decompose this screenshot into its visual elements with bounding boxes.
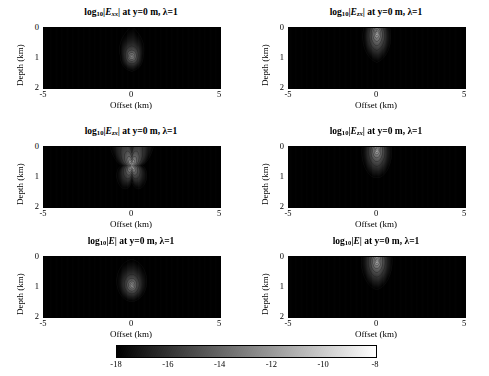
panel-ezx-mid-right-contour-canvas <box>289 147 465 207</box>
panel-ezx-top-ytick-0: 0 <box>266 22 284 32</box>
panel-emag-right-xtick-1: 0 <box>364 318 388 328</box>
panel-emag-right-xlabel: Offset (km) <box>288 329 464 339</box>
panel-ezx-top-ylabel: Depth (km) <box>260 44 270 86</box>
panel-emag-left-contour-canvas <box>44 257 220 317</box>
panel-emag-left-title: log10|E| at y=0 m, λ=1 <box>43 236 219 248</box>
panel-exx-ytick-0: 0 <box>21 22 39 32</box>
panel-exx-xlabel: Offset (km) <box>43 100 219 110</box>
panel-ezx-mid-right-xlabel: Offset (km) <box>288 219 464 229</box>
panel-ezx-mid-right-ylabel: Depth (km) <box>260 163 270 205</box>
colorbar-tick-3: -12 <box>257 359 285 369</box>
panel-ezx-mid-right-axes <box>288 146 466 208</box>
panel-exx: log10|Exx| at y=0 m, λ=1012-505Depth (km… <box>3 7 219 113</box>
panel-emag-right-axes <box>288 256 466 318</box>
panel-emag-left-xtick-2: 5 <box>207 318 231 328</box>
panel-ezx-mid-left-xtick-1: 0 <box>119 208 143 218</box>
panel-emag-left: log10|E| at y=0 m, λ=1012-505Depth (km)O… <box>3 236 219 342</box>
colorbar-tick-1: -16 <box>154 359 182 369</box>
panel-ezx-mid-right-xtick-2: 5 <box>452 208 476 218</box>
panel-ezx-mid-left-ytick-0: 0 <box>21 141 39 151</box>
colorbar-gradient <box>117 346 376 357</box>
colorbar <box>116 345 377 358</box>
panel-emag-left-ylabel: Depth (km) <box>15 273 25 315</box>
panel-emag-right-xtick-2: 5 <box>452 318 476 328</box>
panel-ezx-mid-right-ytick-0: 0 <box>266 141 284 151</box>
panel-ezx-mid-left-xlabel: Offset (km) <box>43 219 219 229</box>
panel-emag-right-ylabel: Depth (km) <box>260 273 270 315</box>
panel-emag-left-xtick-0: -5 <box>31 318 55 328</box>
panel-ezx-top-xtick-1: 0 <box>364 89 388 99</box>
panel-ezx-top-xlabel: Offset (km) <box>288 100 464 110</box>
panel-ezx-top-xtick-0: -5 <box>276 89 300 99</box>
panel-exx-xtick-1: 0 <box>119 89 143 99</box>
panel-ezx-top: log10|Ezx| at y=0 m, λ=1012-505Depth (km… <box>248 7 464 113</box>
panel-emag-right-ytick-0: 0 <box>266 251 284 261</box>
panel-exx-ylabel: Depth (km) <box>15 44 25 86</box>
panel-emag-left-xtick-1: 0 <box>119 318 143 328</box>
panel-exx-xtick-0: -5 <box>31 89 55 99</box>
panel-emag-left-ytick-0: 0 <box>21 251 39 261</box>
panel-ezx-top-contour-canvas <box>289 28 465 88</box>
colorbar-tick-0: -18 <box>102 359 130 369</box>
panel-emag-right: log10|E| at y=0 m, λ=1012-505Depth (km)O… <box>248 236 464 342</box>
panel-ezx-mid-right: log10|Ezx| at y=0 m, λ=1012-505Depth (km… <box>248 126 464 232</box>
panel-ezx-mid-left-title: log10|Ezx| at y=0 m, λ=1 <box>43 126 219 138</box>
colorbar-tick-5: -8 <box>361 359 389 369</box>
panel-ezx-top-axes <box>288 27 466 89</box>
colorbar-tick-4: -10 <box>309 359 337 369</box>
panel-ezx-mid-right-title: log10|Ezx| at y=0 m, λ=1 <box>288 126 464 138</box>
panel-exx-xtick-2: 5 <box>207 89 231 99</box>
panel-ezx-top-title: log10|Ezx| at y=0 m, λ=1 <box>288 7 464 19</box>
panel-exx-title: log10|Exx| at y=0 m, λ=1 <box>43 7 219 19</box>
panel-ezx-top-xtick-2: 5 <box>452 89 476 99</box>
panel-ezx-mid-left-xtick-0: -5 <box>31 208 55 218</box>
panel-ezx-mid-left: log10|Ezx| at y=0 m, λ=1012-505Depth (km… <box>3 126 219 232</box>
panel-ezx-mid-left-xtick-2: 5 <box>207 208 231 218</box>
panel-emag-right-title: log10|E| at y=0 m, λ=1 <box>288 236 464 248</box>
panel-emag-right-contour-canvas <box>289 257 465 317</box>
panel-ezx-mid-right-xtick-0: -5 <box>276 208 300 218</box>
panel-ezx-mid-left-ylabel: Depth (km) <box>15 163 25 205</box>
colorbar-wrap: -18-16-14-12-10-8 <box>116 345 375 372</box>
panel-ezx-mid-left-contour-canvas <box>44 147 220 207</box>
figure-root: log10|Exx| at y=0 m, λ=1012-505Depth (km… <box>0 0 489 376</box>
panel-emag-left-xlabel: Offset (km) <box>43 329 219 339</box>
panel-ezx-mid-left-axes <box>43 146 221 208</box>
panel-exx-axes <box>43 27 221 89</box>
panel-ezx-mid-right-xtick-1: 0 <box>364 208 388 218</box>
colorbar-tick-2: -14 <box>206 359 234 369</box>
panel-emag-right-xtick-0: -5 <box>276 318 300 328</box>
panel-emag-left-axes <box>43 256 221 318</box>
panel-exx-contour-canvas <box>44 28 220 88</box>
